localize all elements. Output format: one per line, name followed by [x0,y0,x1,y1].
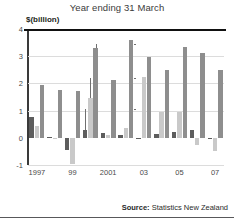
bar-services-2005 [183,47,187,138]
bar-groups [28,29,224,165]
bar-group-inner [135,29,153,165]
bar-services-2003 [147,57,151,138]
bar-group [135,29,153,165]
x-axis-tick-label: 2001 [100,168,117,177]
bar-primary-2000 [83,130,87,137]
bar-primary-1998 [47,137,51,138]
annotation-leader-horizontal [134,44,136,45]
bar-goods-2007 [213,138,217,152]
bar-group [188,29,206,165]
y-axis-tick-label: 2 [19,79,23,88]
source-note: Source: Statistics New Zealand [122,203,228,212]
bar-services-1997 [40,85,44,138]
bar-group [171,29,189,165]
bar-group [28,29,46,165]
y-axis-unit-label: $(billion) [26,15,59,24]
bar-group-inner [206,29,224,165]
bar-group-inner [188,29,206,165]
y-axis-tick-label: 4 [19,25,23,34]
bar-goods-2000 [88,98,92,137]
bar-group [206,29,224,165]
bar-primary-2003 [136,138,140,139]
x-axis-tick-label: 99 [68,168,76,177]
bar-services-2000 [93,48,97,138]
bar-goods-2001 [106,135,110,138]
bar-goods-2002 [124,128,128,138]
bar-group-inner [99,29,117,165]
bar-primary-1999 [65,138,69,150]
y-axis-tick-label: 1 [19,106,23,115]
bar-primary-2004 [154,134,158,138]
source-text: Statistics New Zealand [152,203,228,212]
bar-primary-2005 [172,132,176,138]
annotation-leader-horizontal [134,78,136,79]
y-axis-tick-label: 0 [19,133,23,142]
bar-goods-2006 [195,138,199,145]
bar-group-inner [64,29,82,165]
chart-title: Year ending 31 March [0,2,234,13]
bar-goods-2005 [177,112,181,138]
bottom-rule [0,217,234,218]
bar-services-2006 [200,53,204,137]
bar-group-inner [153,29,171,165]
x-axis-ticks: 1997992001030507 [28,168,224,182]
x-axis-tick-label: 03 [140,168,148,177]
bar-services-2004 [165,70,169,138]
bar-goods-1999 [70,138,74,164]
bar-services-2007 [218,70,222,138]
x-axis-tick-label: 05 [175,168,183,177]
bar-group [153,29,171,165]
y-axis-tick-label: -1 [16,161,23,170]
bar-group [64,29,82,165]
bar-group-inner [117,29,135,165]
bar-primary-2001 [101,133,105,138]
chart-root: Year ending 31 March $(billion) 43210-1 … [0,0,234,220]
bar-primary-2002 [118,135,122,138]
bar-primary-1997 [29,117,33,137]
x-axis-tick-label: 1997 [29,168,46,177]
bar-primary-2007 [208,138,212,139]
gridline [28,165,224,166]
bar-goods-2004 [159,112,163,138]
plot-area: 43210-1 ServicesGoodsPrimary [28,29,224,165]
x-axis-tick-label: 07 [211,168,219,177]
bar-group-inner [46,29,64,165]
bar-group-inner [171,29,189,165]
bar-services-1999 [76,91,80,138]
bar-goods-2003 [142,77,146,138]
bar-primary-2006 [190,130,194,137]
annotation-leader-vertical [85,109,86,130]
zero-line [24,29,226,31]
bar-group-inner [28,29,46,165]
bar-goods-1997 [35,126,39,138]
annotation-leader-horizontal [134,109,136,110]
y-axis-tick-label: 3 [19,52,23,61]
bar-group [46,29,64,165]
bar-services-2002 [129,40,133,138]
annotation-leader-vertical [96,44,97,48]
source-prefix: Source: [122,203,150,212]
annotation-leader-vertical [90,78,91,98]
bar-services-1998 [58,90,62,138]
bar-group [117,29,135,165]
bar-services-2001 [111,80,115,138]
bar-group [99,29,117,165]
bar-goods-1998 [53,138,57,139]
